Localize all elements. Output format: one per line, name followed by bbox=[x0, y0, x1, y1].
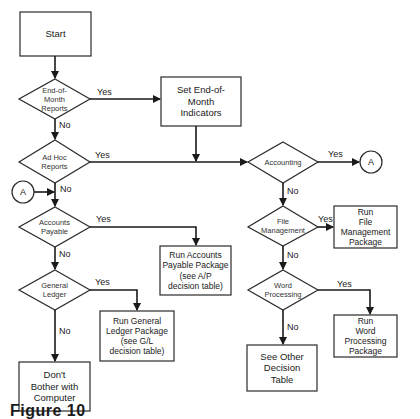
figure-caption: Figure 10 bbox=[10, 402, 86, 419]
acc-no-label: No bbox=[287, 186, 299, 196]
eom-no-label: No bbox=[59, 120, 71, 130]
gl-label: General Ledger bbox=[19, 270, 90, 310]
adhoc-yes-label: Yes bbox=[95, 150, 110, 160]
set-eom-label: Set End-of- Month Indicators bbox=[161, 77, 241, 126]
adhoc-label: Ad Hoc Reports bbox=[19, 140, 90, 183]
connector-a-left-label: A bbox=[12, 181, 34, 203]
wordproc-label: Word Processing bbox=[248, 270, 318, 310]
acc-yes-label: Yes bbox=[328, 149, 343, 159]
eom-label: End-of- Month Reports bbox=[19, 79, 90, 119]
run-wp-label: Run Word Processing Package bbox=[334, 315, 397, 357]
adhoc-no-label: No bbox=[60, 184, 72, 194]
wp-yes-label: Yes bbox=[337, 279, 352, 289]
connector-a-right-label: A bbox=[360, 151, 382, 173]
run-gl-label: Run General Ledger Package (see G/L deci… bbox=[100, 311, 174, 361]
accounting-label: Accounting bbox=[248, 142, 318, 183]
run-ap-label: Run Accounts Payable Package (see A/P de… bbox=[160, 246, 231, 295]
ap-no-label: No bbox=[59, 249, 71, 259]
gl-yes-label: Yes bbox=[95, 277, 110, 287]
ap-label: Accounts Payable bbox=[19, 207, 90, 247]
other-label: See Other Decision Table bbox=[247, 345, 317, 391]
wp-no-label: No bbox=[287, 322, 299, 332]
ap-yes-label: Yes bbox=[96, 214, 111, 224]
start-label: Start bbox=[20, 12, 91, 56]
run-fm-label: Run File Management Package bbox=[334, 206, 397, 248]
gl-no-label: No bbox=[59, 326, 71, 336]
fm-yes-label: Yes bbox=[318, 214, 333, 224]
eom-yes-label: Yes bbox=[97, 87, 112, 97]
fm-no-label: No bbox=[287, 250, 299, 260]
filemgmt-label: File Management bbox=[248, 206, 318, 246]
